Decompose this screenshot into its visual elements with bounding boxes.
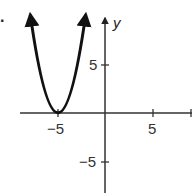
parabola-graph: −5 5 5 −5 y: [0, 0, 194, 193]
x-tick-label-5: 5: [148, 120, 156, 137]
x-tick-label-neg5: −5: [47, 120, 64, 137]
y-axis: [101, 18, 109, 193]
y-tick-label-neg5: −5: [79, 153, 96, 170]
y-axis-label: y: [112, 14, 122, 31]
parabola-curve: [30, 15, 85, 113]
x-axis: [20, 109, 192, 117]
y-tick-label-5: 5: [89, 56, 97, 73]
